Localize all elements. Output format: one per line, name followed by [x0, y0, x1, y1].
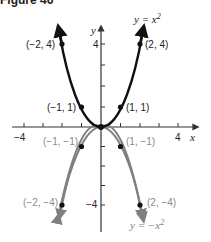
- parabola-plot: −4 4 4 −4 y x (−2, 4) (2, 4) (−1, 1) (1,…: [0, 0, 211, 242]
- point-label-neg2-neg4: (−2, −4): [23, 197, 58, 208]
- y-tick-label-neg4: −4: [86, 199, 98, 210]
- x-tick-label-neg4: −4: [14, 132, 26, 143]
- point-label-2-neg4: (2, −4): [147, 197, 176, 208]
- y-axis: [101, 28, 105, 232]
- y-tick-label-4: 4: [93, 39, 99, 50]
- point-label-1-neg1: (1, −1): [126, 136, 155, 147]
- point-label-1-1: (1, 1): [126, 102, 149, 113]
- x-tick-label-4: 4: [175, 132, 181, 143]
- equation-label-lower: y = −x2: [129, 218, 164, 231]
- x-axis-label: x: [189, 131, 195, 143]
- y-axis-label: y: [90, 24, 96, 36]
- equation-label-upper: y = x2: [133, 12, 161, 25]
- point-label-neg2-4: (−2, 4): [26, 39, 55, 50]
- point-label-neg1-1: (−1, 1): [47, 102, 76, 113]
- point-label-2-4: (2, 4): [145, 39, 168, 50]
- point-label-neg1-neg1: (−1, −1): [43, 136, 78, 147]
